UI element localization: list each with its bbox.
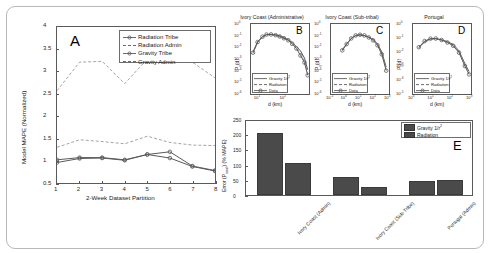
tick-mark bbox=[170, 181, 171, 184]
tick-mark bbox=[245, 181, 248, 182]
legend-label: Data bbox=[431, 88, 440, 93]
legend-label: Data bbox=[349, 88, 358, 93]
panel-e-bar bbox=[285, 163, 311, 195]
panel-a-letter: A bbox=[70, 32, 80, 49]
legend-swatch-icon bbox=[123, 42, 138, 49]
legend-swatch-icon bbox=[404, 124, 415, 131]
panel-d: Portugal D Pij(d) d (km) 10010-110-210-3… bbox=[394, 14, 476, 114]
tick-mark bbox=[56, 184, 59, 185]
panel-e-y-axis-title: Error (Ptotal) (% MAPE) bbox=[221, 139, 229, 192]
panel-c-x-tick: 103 bbox=[384, 94, 390, 100]
panel-a-y-tick: 4 bbox=[43, 22, 46, 28]
panel-d-y-tick: 10-5 bbox=[396, 90, 403, 96]
legend-swatch-icon bbox=[416, 82, 431, 87]
panel-b-y-tick: 10-1 bbox=[234, 32, 241, 38]
tick-mark bbox=[56, 181, 57, 184]
tick-mark bbox=[245, 150, 248, 151]
panel-c-y-tick: 10-1 bbox=[314, 32, 321, 38]
panel-c: Ivory Coast (Sub-tribal) C Pij(d) d (km)… bbox=[312, 14, 392, 114]
panel-e-legend-item: Gravity 1/r2 bbox=[404, 124, 468, 131]
legend-label: Radiation Tribe bbox=[138, 34, 178, 40]
legend-label: Radiation bbox=[349, 82, 367, 87]
panel-b-y-tick: 10-4 bbox=[234, 67, 241, 73]
panel-e-y-tick: 200 bbox=[233, 132, 241, 138]
panel-d-title: Portugal bbox=[392, 14, 476, 20]
legend-label: Gravity 1/r2 bbox=[417, 124, 442, 131]
tick-mark bbox=[102, 181, 103, 184]
tick-mark bbox=[245, 135, 248, 136]
panel-b-y-tick: 10-2 bbox=[234, 43, 241, 49]
panel-e-bar bbox=[437, 180, 463, 195]
legend-swatch-icon bbox=[254, 88, 269, 93]
panel-e-legend: Gravity 1/r2Radiation bbox=[401, 122, 471, 138]
panel-a-x-axis-title: 2-Week Dataset Partition bbox=[86, 194, 155, 201]
panel-e-y-tick: 150 bbox=[233, 147, 241, 153]
panel-c-y-tick: 10-6 bbox=[314, 90, 321, 96]
legend-swatch-icon bbox=[123, 50, 138, 57]
panel-a-x-tick: 3 bbox=[100, 186, 103, 192]
panel-a-y-tick: 2 bbox=[43, 112, 46, 118]
panel-c-legend: Gravity 1/r2RadiationData bbox=[332, 73, 368, 93]
panel-d-legend: Gravity 1/r2RadiationData bbox=[414, 73, 450, 93]
panel-c-y-tick: 10-5 bbox=[314, 78, 321, 84]
tick-mark bbox=[56, 116, 59, 117]
panel-a-x-tick: 7 bbox=[191, 186, 194, 192]
legend-label: Gravity Admin bbox=[138, 59, 175, 65]
tick-mark bbox=[56, 139, 59, 140]
panel-e-y-tick: 0 bbox=[233, 193, 236, 199]
tick-mark bbox=[245, 196, 248, 197]
panel-b-legend-item: Data bbox=[254, 88, 286, 94]
panel-d-y-tick: 100 bbox=[396, 20, 402, 26]
legend-label: Data bbox=[269, 88, 278, 93]
panel-c-x-axis-title: d (km) bbox=[348, 101, 362, 107]
panel-a-legend-item: Radiation Tribe bbox=[123, 33, 207, 41]
panel-c-title: Ivory Coast (Sub-tribal) bbox=[310, 14, 394, 20]
panel-e-bar bbox=[257, 133, 283, 195]
panel-d-y-tick: 10-3 bbox=[396, 62, 403, 68]
panel-a-y-tick: 3.5 bbox=[43, 45, 51, 51]
legend-label: Radiation bbox=[417, 132, 438, 138]
panel-b-letter: B bbox=[296, 25, 303, 36]
panel-d-y-tick: 10-4 bbox=[396, 76, 403, 82]
panel-c-legend-item: Data bbox=[334, 88, 366, 94]
panel-a-y-tick: 1.5 bbox=[43, 135, 51, 141]
panel-a-legend-item: Gravity Admin bbox=[123, 58, 207, 66]
legend-swatch-icon bbox=[254, 76, 269, 81]
panel-b-y-tick: 100 bbox=[234, 20, 240, 26]
panel-d-y-tick: 10-2 bbox=[396, 48, 403, 54]
panel-e-category-label: Ivory Coast (Sub-Tribe) bbox=[374, 200, 415, 241]
panel-a-x-tick: 6 bbox=[168, 186, 171, 192]
panel-a-legend: Radiation TribeRadiation AdminGravity Tr… bbox=[119, 30, 211, 63]
panel-a-x-tick: 5 bbox=[145, 186, 148, 192]
tick-mark bbox=[245, 166, 248, 167]
legend-swatch-icon bbox=[404, 132, 415, 139]
panel-a-y-tick: 1 bbox=[43, 157, 46, 163]
legend-label: Radiation Admin bbox=[138, 42, 182, 48]
panel-a-y-tick: 3 bbox=[43, 67, 46, 73]
legend-label: Radiation bbox=[431, 82, 449, 87]
panel-d-legend-item: Data bbox=[416, 88, 448, 94]
panel-e-category-label: Portugal (Admin) bbox=[446, 200, 477, 231]
tick-mark bbox=[193, 181, 194, 184]
tick-mark bbox=[79, 181, 80, 184]
tick-mark bbox=[56, 49, 59, 50]
legend-swatch-icon bbox=[334, 88, 349, 93]
panel-a-legend-item: Gravity Tribe bbox=[123, 49, 207, 57]
panel-a-x-tick: 1 bbox=[54, 186, 57, 192]
panel-a-y-axis-title: Model MAPE (Normalized) bbox=[20, 91, 27, 164]
panel-e-legend-item: Radiation bbox=[404, 131, 468, 138]
panel-a-x-tick: 2 bbox=[77, 186, 80, 192]
panel-a-y-tick: 2.5 bbox=[43, 90, 51, 96]
legend-swatch-icon bbox=[416, 88, 431, 93]
panel-d-y-tick: 10-1 bbox=[396, 34, 403, 40]
panel-e-category-label: Ivory Coast (Admin) bbox=[296, 200, 331, 235]
tick-mark bbox=[56, 26, 59, 27]
panel-c-x-tick: 102 bbox=[370, 94, 376, 100]
tick-mark bbox=[56, 161, 59, 162]
panel-e-bar bbox=[361, 187, 387, 195]
tick-mark bbox=[147, 181, 148, 184]
panel-c-y-tick: 10-4 bbox=[314, 67, 321, 73]
legend-swatch-icon bbox=[123, 34, 138, 41]
legend-swatch-icon bbox=[334, 82, 349, 87]
tick-mark bbox=[56, 71, 59, 72]
